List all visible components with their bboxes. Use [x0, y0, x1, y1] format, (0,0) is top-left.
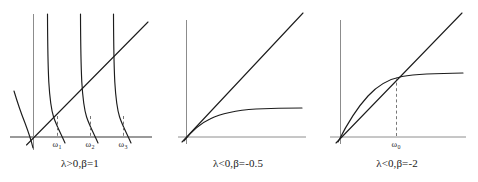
saturating-curve [338, 73, 463, 142]
figure-container: ω 1 ω 2 ω 3 λ>0,β=1 λ<0,β=-0.5 [0, 0, 478, 182]
panel-3-plot: ω 0 [316, 0, 478, 150]
panel-lambda-negative-beta-two: ω 0 λ<0,β=-2 [316, 0, 478, 182]
tick-label-omega-2: ω [86, 139, 92, 149]
panel-lambda-negative-beta-half: λ<0,β=-0.5 [158, 0, 318, 182]
panel-2-plot [158, 0, 318, 150]
tick-label-omega-0: ω [392, 139, 398, 149]
tick-sub-omega-0: 0 [398, 144, 401, 150]
cot-branch-0 [14, 91, 33, 148]
cot-branch-2 [81, 14, 99, 143]
panel-1-plot: ω 1 ω 2 ω 3 [0, 0, 160, 150]
tick-label-omega-1: ω [53, 139, 59, 149]
tick-sub-omega-2: 2 [92, 144, 95, 150]
panel-3-caption: λ<0,β=-2 [316, 156, 478, 170]
saturating-curve [184, 108, 302, 141]
straight-line [336, 13, 462, 143]
tick-label-omega-3: ω [119, 139, 125, 149]
tick-sub-omega-1: 1 [59, 144, 62, 150]
cot-branch-1 [48, 14, 66, 143]
straight-line [27, 22, 149, 145]
straight-line [182, 13, 303, 142]
panel-lambda-positive: ω 1 ω 2 ω 3 λ>0,β=1 [0, 0, 160, 182]
panel-1-caption: λ>0,β=1 [0, 156, 160, 170]
cot-branch-3 [114, 14, 132, 143]
panel-2-caption: λ<0,β=-0.5 [158, 156, 318, 170]
tick-sub-omega-3: 3 [125, 144, 128, 150]
